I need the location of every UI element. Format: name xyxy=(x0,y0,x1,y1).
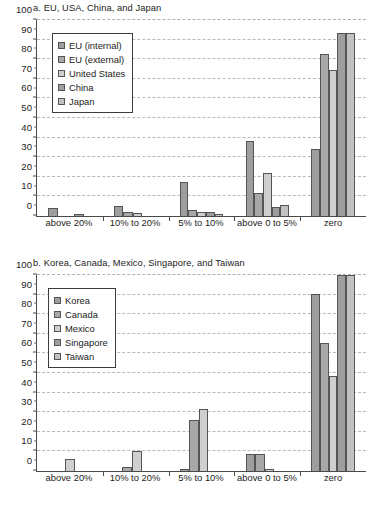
chart-b-legend: KoreaCanadaMexicoSingaporeTaiwan xyxy=(48,288,116,368)
legend-item-united-states: United States xyxy=(58,66,125,80)
bars-container xyxy=(180,275,223,471)
x-axis-label: above 0 to 5% xyxy=(234,217,300,228)
chart-panel-b: b. Korea, Canada, Mexico, Singapore, and… xyxy=(0,255,376,510)
legend-swatch-icon xyxy=(58,56,65,63)
bar-eu-internal- xyxy=(311,149,320,216)
legend-label: China xyxy=(69,82,94,93)
bar-japan xyxy=(280,205,289,216)
chart-b-title: b. Korea, Canada, Mexico, Singapore, and… xyxy=(33,258,245,268)
bar-korea xyxy=(311,294,320,471)
y-tick-label-50: 50 xyxy=(21,102,32,113)
bar-china xyxy=(337,33,346,216)
x-axis-label: zero xyxy=(300,472,366,483)
bar-china xyxy=(272,207,281,216)
bar-canada xyxy=(255,454,264,471)
y-tick-label-70: 70 xyxy=(21,62,32,73)
y-tick-label-0: 0 xyxy=(27,455,32,466)
y-tick-label-0: 0 xyxy=(27,200,32,211)
bars-container xyxy=(311,275,354,471)
bar-eu-internal- xyxy=(246,141,255,216)
bar-eu-internal- xyxy=(48,208,58,216)
y-tick-label-50: 50 xyxy=(21,357,32,368)
bar-united-states xyxy=(133,213,142,216)
bar-mexico xyxy=(329,376,338,471)
bar-eu-external- xyxy=(320,54,329,216)
y-tick-label-60: 60 xyxy=(21,82,32,93)
bar-singapore xyxy=(337,275,346,471)
bar-mexico xyxy=(132,451,142,471)
bars-container xyxy=(246,20,289,216)
bar-canada xyxy=(189,420,198,471)
chart-b-x-axis-labels: above 20%10% to 20%5% to 10%above 0 to 5… xyxy=(36,472,366,483)
bar-canada xyxy=(122,467,132,471)
legend-swatch-icon xyxy=(58,98,65,105)
bar-mexico xyxy=(65,459,75,471)
legend-item-eu-external-: EU (external) xyxy=(58,52,125,66)
bar-canada xyxy=(320,343,329,471)
legend-swatch-icon xyxy=(54,311,61,318)
legend-label: EU (external) xyxy=(69,54,124,65)
legend-label: Singapore xyxy=(65,337,108,348)
bar-china xyxy=(206,212,215,216)
bar-group-5-to-10- xyxy=(169,20,235,216)
bars-container xyxy=(311,20,354,216)
chart-a-title: a. EU, USA, China, and Japan xyxy=(33,3,161,13)
y-tick-label-80: 80 xyxy=(21,298,32,309)
legend-item-taiwan: Taiwan xyxy=(54,349,108,363)
legend-swatch-icon xyxy=(54,339,61,346)
bar-eu-external- xyxy=(254,193,263,216)
bar-china xyxy=(74,214,84,216)
bars-container xyxy=(180,20,223,216)
bar-eu-external- xyxy=(123,212,132,216)
bar-taiwan xyxy=(346,275,355,471)
legend-swatch-icon xyxy=(54,325,61,332)
legend-swatch-icon xyxy=(54,353,61,360)
legend-item-canada: Canada xyxy=(54,307,108,321)
y-tick-label-100: 100 xyxy=(16,259,32,270)
bars-container xyxy=(246,275,289,471)
figure-two-panel-bar-charts: a. EU, USA, China, and Japan 01020304050… xyxy=(0,0,376,510)
bar-mexico xyxy=(199,409,208,471)
chart-a-legend: EU (internal)EU (external)United StatesC… xyxy=(52,33,133,113)
bar-eu-external- xyxy=(188,210,197,216)
y-tick-label-90: 90 xyxy=(21,278,32,289)
legend-label: Mexico xyxy=(65,323,95,334)
bar-korea xyxy=(246,454,255,471)
legend-swatch-icon xyxy=(58,70,65,77)
chart-panel-a: a. EU, USA, China, and Japan 01020304050… xyxy=(0,0,376,255)
bar-group-above-0-to-5- xyxy=(234,275,300,471)
legend-item-eu-internal-: EU (internal) xyxy=(58,38,125,52)
legend-label: EU (internal) xyxy=(69,40,122,51)
x-axis-label: above 20% xyxy=(36,472,102,483)
legend-item-singapore: Singapore xyxy=(54,335,108,349)
x-axis-label: 5% to 10% xyxy=(168,217,234,228)
y-tick-label-40: 40 xyxy=(21,376,32,387)
y-tick-label-100: 100 xyxy=(16,4,32,15)
y-tick-label-10: 10 xyxy=(21,180,32,191)
x-axis-label: 10% to 20% xyxy=(102,217,168,228)
y-tick-label-30: 30 xyxy=(21,141,32,152)
legend-item-korea: Korea xyxy=(54,293,108,307)
legend-item-japan: Japan xyxy=(58,94,125,108)
bar-united-states xyxy=(329,70,338,216)
legend-label: United States xyxy=(69,68,125,79)
legend-label: Canada xyxy=(65,309,98,320)
bar-group-zero xyxy=(300,275,366,471)
x-axis-label: 5% to 10% xyxy=(168,472,234,483)
x-axis-label: 10% to 20% xyxy=(102,472,168,483)
y-tick-label-60: 60 xyxy=(21,337,32,348)
y-tick-label-20: 20 xyxy=(21,160,32,171)
x-axis-label: above 0 to 5% xyxy=(234,472,300,483)
chart-a-x-axis-labels: above 20%10% to 20%5% to 10%above 0 to 5… xyxy=(36,217,366,228)
bar-united-states xyxy=(197,212,206,216)
bar-japan xyxy=(346,33,355,216)
bar-group-above-0-to-5- xyxy=(234,20,300,216)
legend-swatch-icon xyxy=(58,42,65,49)
y-tick-label-70: 70 xyxy=(21,317,32,328)
bar-united-states xyxy=(263,173,272,217)
y-tick-label-20: 20 xyxy=(21,415,32,426)
bar-eu-internal- xyxy=(180,182,189,216)
bar-group-zero xyxy=(300,20,366,216)
legend-swatch-icon xyxy=(54,297,61,304)
legend-label: Taiwan xyxy=(65,351,94,362)
